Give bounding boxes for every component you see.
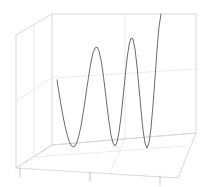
back-pane xyxy=(52,14,196,145)
matplotlib-3d-axes xyxy=(0,0,204,187)
plot-container xyxy=(0,0,204,187)
